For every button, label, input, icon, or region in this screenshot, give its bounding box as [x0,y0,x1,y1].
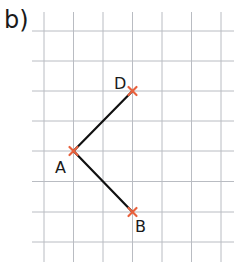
grid-diagram [0,0,245,270]
grid [32,12,234,262]
point-d-label: D [114,76,126,92]
point-b-label: B [135,219,146,235]
point-a-label: A [55,160,66,176]
